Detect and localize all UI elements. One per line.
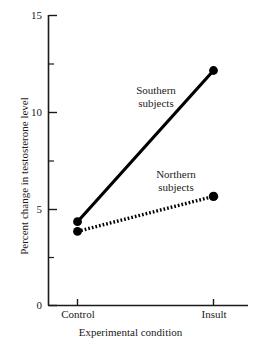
data-point-northern-control	[73, 227, 82, 236]
data-point-southern-insult	[209, 66, 218, 75]
y-tick-label-15: 15	[20, 10, 42, 21]
series-annotation-southern-line2: subjects	[124, 97, 188, 110]
series-line-northern	[78, 196, 214, 231]
y-axis-title: Percent change in testosterone level	[18, 61, 30, 291]
y-tick-label-0: 0	[20, 300, 42, 311]
series-annotation-northern-line2: subjects	[144, 181, 208, 194]
series-annotation-southern-line1: Southern	[136, 84, 176, 96]
series-annotation-northern-line1: Northern	[156, 168, 196, 180]
x-tick-label-control: Control	[43, 309, 113, 320]
x-axis-title: Experimental condition	[0, 326, 261, 338]
series-annotation-southern: Southern subjects	[124, 84, 188, 109]
data-point-southern-control	[73, 217, 82, 226]
data-point-northern-insult	[209, 192, 218, 201]
x-tick-label-insult: Insult	[179, 309, 249, 320]
chart-container: 15 10 5 0 Control Insult Percent change …	[0, 0, 261, 345]
series-annotation-northern: Northern subjects	[144, 168, 208, 193]
plot-area	[0, 0, 261, 345]
